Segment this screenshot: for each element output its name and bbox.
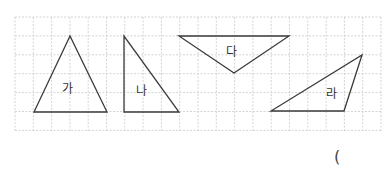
dashed-grid bbox=[15, 17, 381, 130]
triangle-da-label: 다 bbox=[226, 45, 237, 59]
triangle-na-label: 나 bbox=[136, 84, 147, 98]
triangle-ra-label: 라 bbox=[326, 87, 337, 101]
triangle-ra-shape bbox=[271, 55, 362, 111]
answer-blank-open-paren: ( bbox=[334, 147, 340, 166]
triangle-ga-label: 가 bbox=[62, 82, 73, 96]
triangle-ra: 라 bbox=[271, 55, 362, 111]
triangle-grid-figure: 가 나 다 라 bbox=[0, 0, 391, 172]
